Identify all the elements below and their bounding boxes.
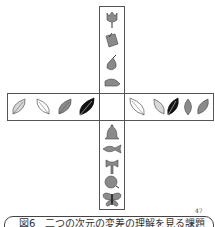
empty-center-cell[interactable] <box>99 93 125 121</box>
butterfly-icon <box>102 191 122 207</box>
leaf-icon <box>78 97 96 117</box>
leaf-icon <box>196 98 210 116</box>
leaf-icon <box>11 98 27 116</box>
leaf-icon <box>128 97 146 117</box>
bell-icon <box>104 124 120 140</box>
leaf-icon <box>166 97 180 117</box>
axe-icon <box>104 158 120 174</box>
leaf-icon <box>181 98 195 116</box>
fish-icon <box>102 144 122 154</box>
superscript-number: 47 <box>195 207 203 214</box>
figure-caption: 図6 二つの次元の変差の理解を見る課題 <box>4 216 214 227</box>
tulip-icon <box>104 10 120 28</box>
leaf-icon <box>152 98 166 116</box>
apple-icon <box>104 175 120 189</box>
book-icon <box>104 31 120 49</box>
leaf-icon <box>57 98 73 116</box>
cap-icon <box>103 77 121 89</box>
pear-icon <box>104 54 120 72</box>
leaf-icon <box>35 98 51 116</box>
